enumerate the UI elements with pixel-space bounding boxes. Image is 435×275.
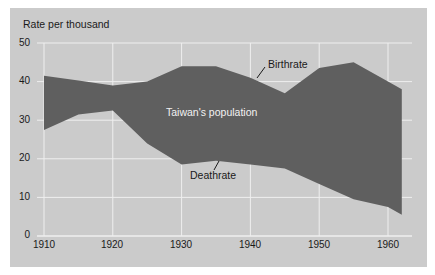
y-tick-20: 20: [8, 152, 30, 163]
birthrate-label: Birthrate: [268, 58, 308, 70]
birthrate-leader-line: [257, 67, 265, 78]
chart-plot: [0, 0, 435, 275]
x-tick-1920: 1920: [97, 239, 127, 250]
x-tick-1930: 1930: [166, 239, 196, 250]
y-tick-50: 50: [8, 37, 30, 48]
y-axis-title: Rate per thousand: [23, 18, 109, 30]
population-label: Taiwan's population: [166, 106, 257, 118]
y-tick-40: 40: [8, 75, 30, 86]
y-tick-30: 30: [8, 114, 30, 125]
y-tick-10: 10: [8, 191, 30, 202]
y-tick-0: 0: [8, 229, 30, 240]
x-tick-1910: 1910: [29, 239, 59, 250]
x-tick-1960: 1960: [373, 239, 403, 250]
deathrate-label: Deathrate: [190, 169, 236, 181]
population-area: [44, 62, 402, 215]
x-tick-1940: 1940: [235, 239, 265, 250]
x-tick-1950: 1950: [304, 239, 334, 250]
